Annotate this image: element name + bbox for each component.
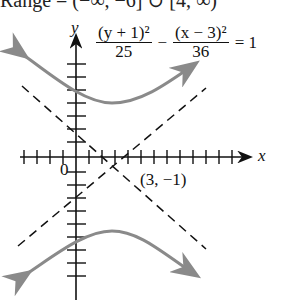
fraction-x-term: (x − 3)² 36: [173, 24, 229, 61]
center-point-label: (3, −1): [140, 170, 186, 190]
hyperbola-equation: (y + 1)² 25 − (x − 3)² 36 = 1: [96, 24, 263, 61]
asymptote-positive-slope: [18, 88, 206, 246]
lower-branch: [28, 231, 196, 275]
x-axis: [20, 150, 250, 164]
hyperbola-branches: [25, 56, 196, 275]
origin-label: 0: [60, 160, 69, 180]
upper-branch: [25, 56, 195, 103]
fraction-y-term: (y + 1)² 25: [96, 24, 152, 61]
y-axis: [67, 36, 86, 300]
asymptotes: [18, 86, 206, 249]
x-axis-label: x: [258, 146, 266, 166]
y-axis-label: y: [71, 18, 79, 38]
